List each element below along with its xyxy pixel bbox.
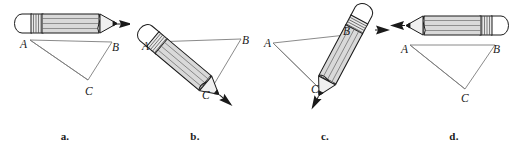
vertex-label-a: A — [400, 43, 409, 55]
triangle-abc — [30, 40, 112, 80]
panel-caption-a: a. — [0, 130, 130, 142]
pencil-lead-tip — [406, 23, 410, 28]
vertex-label-a: A — [141, 40, 150, 52]
vertex-label-c: C — [311, 83, 319, 95]
tip-arrowhead-icon — [308, 95, 322, 111]
pencil-horizontal-right — [15, 14, 131, 33]
panel-d-drawing: A B C — [390, 0, 518, 145]
panel-c: A B C c. — [260, 0, 390, 145]
panel-c-drawing: A B C — [260, 0, 390, 145]
panel-d: A B C d. — [390, 0, 518, 145]
vertex-label-b: B — [493, 43, 500, 55]
pencil-lead-tip — [113, 21, 117, 26]
eraser-cap — [15, 14, 33, 33]
panel-caption-d: d. — [390, 130, 518, 142]
panel-a: A B C a. — [0, 0, 130, 145]
panel-caption-b: b. — [130, 130, 260, 142]
eraser-arrowhead-icon — [376, 26, 390, 35]
vertex-label-c: C — [85, 85, 93, 97]
panel-b: A B C b. — [130, 0, 260, 145]
panel-b-drawing: A B C — [130, 0, 260, 145]
pencil-horizontal-left — [390, 16, 509, 35]
vertex-label-c: C — [202, 89, 210, 101]
vertex-label-a: A — [19, 38, 28, 50]
triangle-abc — [410, 45, 495, 89]
eraser-side-arrow — [375, 26, 390, 35]
pencil-rotated-down-left — [303, 0, 375, 114]
eraser-cap — [491, 16, 509, 35]
vertex-label-a: A — [263, 37, 272, 49]
vertex-label-b: B — [112, 41, 119, 53]
panel-a-drawing: A B C — [0, 0, 130, 145]
panel-caption-c: c. — [260, 130, 390, 142]
pencil-rotation-figure: A B C a. — [0, 0, 518, 145]
pencil-rotated-down-right — [134, 21, 239, 113]
tip-arrowhead-icon — [390, 21, 404, 30]
vertex-label-c: C — [461, 92, 469, 104]
vertex-label-b: B — [242, 34, 249, 46]
vertex-label-b: B — [343, 25, 350, 37]
